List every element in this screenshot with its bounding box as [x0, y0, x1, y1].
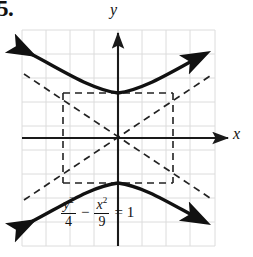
term1-exponent: 2 [69, 195, 74, 205]
minus-operator: − [81, 205, 89, 220]
term1-numerator: y2 [61, 196, 76, 213]
equation-right-side: = 1 [114, 205, 134, 220]
equation-term-1: y2 4 [61, 196, 76, 229]
equation: y2 4 − x2 9 = 1 [60, 196, 134, 229]
equation-term-2: x2 9 [94, 196, 109, 229]
term1-denominator: 4 [63, 214, 74, 229]
term2-exponent: 2 [103, 195, 108, 205]
term2-numerator: x2 [95, 196, 110, 213]
term2-denominator: 9 [96, 214, 107, 229]
